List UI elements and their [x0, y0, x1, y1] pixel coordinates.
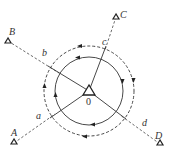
inner-arrow-left-icon	[54, 92, 58, 97]
segment-b-label: b	[42, 47, 47, 58]
station-a-label: A	[10, 127, 18, 138]
outer-arrow-bottom-icon	[82, 135, 87, 139]
line-d-dashed	[120, 115, 160, 144]
segment-a-label: a	[36, 110, 41, 121]
station-b-label: B	[9, 26, 15, 37]
line-c-dashed	[105, 17, 116, 50]
center-station-triangle-icon	[83, 85, 95, 95]
line-a-dashed	[14, 114, 55, 143]
station-c-triangle-icon	[113, 14, 119, 19]
center-label: 0	[86, 96, 91, 107]
segment-c-label: c	[102, 36, 107, 47]
line-b-solid	[48, 66, 89, 91]
segment-d-label: d	[142, 117, 148, 128]
outer-arrow-left-icon	[43, 83, 47, 88]
line-c-solid	[89, 46, 106, 91]
inner-arrow-bottom-icon	[90, 123, 95, 127]
inner-arrow-right-icon	[121, 79, 125, 84]
station-c-label: C	[120, 9, 127, 20]
station-d-label: D	[154, 130, 163, 141]
station-a-triangle-icon	[11, 139, 17, 144]
diagram-canvas: A B C D a b c d 0	[0, 0, 175, 159]
traverse-diagram: A B C D a b c d 0	[0, 0, 175, 159]
station-b-triangle-icon	[5, 38, 11, 43]
outer-arrow-right-icon	[132, 78, 136, 83]
